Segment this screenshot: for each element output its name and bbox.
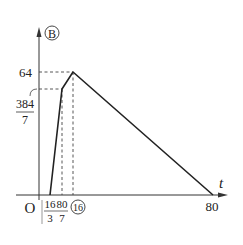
x-axis-label: t <box>219 175 224 191</box>
origin-label: O <box>25 200 36 216</box>
y-axis-label: B <box>48 27 56 41</box>
x-tick-80-7-num: 80 <box>57 198 69 210</box>
x-tick-80: 80 <box>206 199 219 214</box>
y-tick-64: 64 <box>19 65 33 80</box>
x-tick-16-3-num: 16 <box>45 198 57 210</box>
x-tick-16-3-den: 3 <box>47 212 53 224</box>
x-tick-80-7-den: 7 <box>59 212 65 224</box>
chart-svg: B 64 384 7 O 16 3 80 7 16 80 t <box>0 0 243 245</box>
y-axis-arrow-icon <box>37 27 42 37</box>
x-axis-arrow-icon <box>218 193 228 198</box>
y-tick-384-den: 7 <box>22 113 28 127</box>
series-line <box>50 72 213 195</box>
x-tick-16: 16 <box>73 202 83 213</box>
chart: B 64 384 7 O 16 3 80 7 16 80 t <box>0 0 243 245</box>
label-leader <box>30 89 37 96</box>
y-tick-384-num: 384 <box>16 97 34 111</box>
